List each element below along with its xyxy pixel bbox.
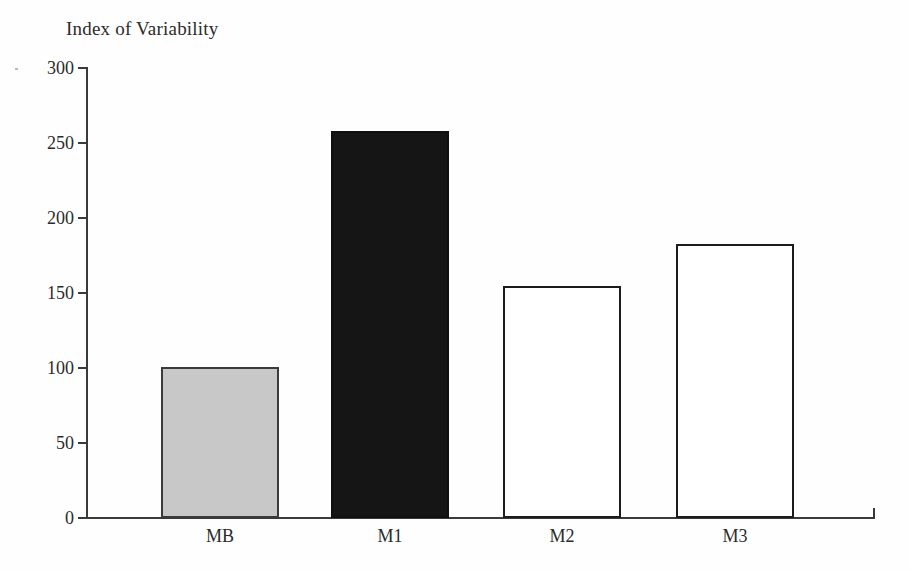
y-axis-tick-label: 50 bbox=[4, 434, 74, 452]
bar-chart-figure: Index of Variability 050100150200250300 … bbox=[0, 0, 911, 571]
y-axis-tick bbox=[78, 517, 87, 519]
bar-m2[interactable] bbox=[503, 286, 621, 519]
y-axis-tick bbox=[78, 367, 87, 369]
bar-mb[interactable] bbox=[161, 367, 279, 519]
bar-m1[interactable] bbox=[331, 131, 449, 518]
x-axis-label-mb: MB bbox=[161, 527, 279, 545]
x-axis-end-tick bbox=[873, 508, 875, 519]
bar-m3[interactable] bbox=[676, 244, 794, 519]
x-axis-label-m3: M3 bbox=[676, 527, 794, 545]
y-axis-tick-label: 200 bbox=[4, 209, 74, 227]
x-axis-label-m1: M1 bbox=[331, 527, 449, 545]
y-axis-tick-label: 150 bbox=[4, 284, 74, 302]
y-axis-tick bbox=[78, 292, 87, 294]
y-axis-tick bbox=[78, 67, 87, 69]
x-axis-label-m2: M2 bbox=[503, 527, 621, 545]
plot-area: 050100150200250300 MBM1M2M3 bbox=[0, 0, 911, 571]
y-axis-tick bbox=[78, 442, 87, 444]
y-axis-tick-label: 0 bbox=[4, 509, 74, 527]
y-axis-tick bbox=[78, 142, 87, 144]
y-axis-tick bbox=[78, 217, 87, 219]
y-axis-tick-label: 300 bbox=[4, 59, 74, 77]
y-axis-tick-label: 250 bbox=[4, 134, 74, 152]
y-axis-tick-label: 100 bbox=[4, 359, 74, 377]
